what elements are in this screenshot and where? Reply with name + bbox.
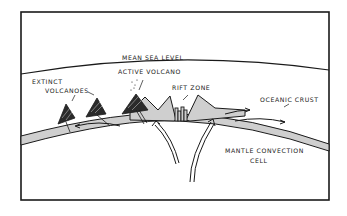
label-rift-zone: RIFT ZONE	[172, 84, 210, 91]
ash-plume	[130, 79, 137, 90]
label-cell: CELL	[250, 157, 268, 164]
hotspot-diagram: MEAN SEA LEVEL EXTINCT VOLCANOES ACTIVE …	[0, 0, 347, 216]
upwelling-arrow-2	[190, 122, 211, 182]
label-sea-level: MEAN SEA LEVEL	[122, 54, 183, 61]
ridge-east	[186, 95, 245, 121]
rift-blocks	[175, 107, 187, 121]
label-active-volcano: ACTIVE VOLCANO	[118, 68, 181, 75]
label-extinct: EXTINCT	[32, 78, 63, 85]
label-mantle: MANTLE CONVECTION	[225, 147, 304, 154]
extinct-volcano-1	[58, 104, 75, 124]
label-oceanic-crust: OCEANIC CRUST	[260, 96, 319, 103]
extinct-volcano-2	[86, 98, 106, 117]
label-volcanoes: VOLCANOES	[45, 87, 89, 94]
